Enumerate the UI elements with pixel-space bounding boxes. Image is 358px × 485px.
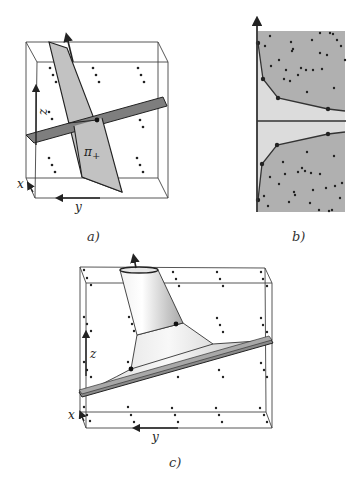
x-axis-arrow-a bbox=[29, 185, 33, 192]
intersection-point bbox=[95, 118, 100, 123]
panel-c: z x y c) bbox=[68, 258, 273, 470]
panel-a: z x y π+ a) bbox=[17, 37, 168, 244]
surface-point-upper bbox=[174, 322, 179, 327]
panel-b: b) bbox=[256, 21, 346, 244]
x-axis-arrow-c bbox=[81, 414, 84, 421]
y-label-c: y bbox=[151, 430, 159, 444]
x-label-c: x bbox=[68, 408, 75, 422]
caption-c: c) bbox=[169, 455, 181, 470]
y-label-a: y bbox=[74, 200, 82, 214]
x-label-a: x bbox=[17, 177, 24, 191]
surface-point-lower bbox=[129, 367, 134, 372]
caption-a: a) bbox=[87, 229, 100, 244]
funnel-top-ellipse bbox=[120, 267, 158, 273]
funnel-stem bbox=[120, 270, 183, 335]
funnel-skirt bbox=[100, 323, 272, 385]
caption-b: b) bbox=[292, 229, 305, 244]
figure: z x y π+ a) bbox=[0, 0, 358, 485]
z-label-a: z bbox=[36, 108, 50, 116]
z-label-c: z bbox=[89, 347, 97, 361]
